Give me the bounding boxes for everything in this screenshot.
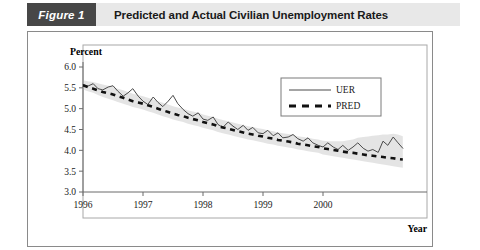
x-tick-label: 1998 (194, 200, 213, 210)
figure-number-badge: Figure 1 (27, 3, 96, 26)
figure-frame: 6.05.55.04.54.03.53.01996199719981999200… (27, 31, 433, 247)
x-tick-label: 2000 (314, 200, 333, 210)
y-tick-label: 4.0 (64, 146, 76, 156)
y-tick-label: 4.5 (64, 125, 76, 135)
y-tick-label: 6.0 (64, 62, 76, 72)
x-axis-title: Year (407, 223, 427, 234)
legend-label-pred: PRED (336, 101, 360, 111)
legend-box (281, 78, 381, 116)
y-tick-label: 3.0 (64, 187, 76, 197)
legend-label-uer: UER (336, 85, 356, 95)
y-axis-title: Percent (70, 46, 103, 57)
x-tick-label: 1997 (134, 200, 153, 210)
x-tick-label: 1996 (74, 200, 93, 210)
unemployment-rate-chart: 6.05.55.04.54.03.53.01996199719981999200… (28, 32, 434, 248)
x-tick-label: 1999 (254, 200, 273, 210)
y-tick-label: 5.0 (64, 104, 76, 114)
figure-title: Predicted and Actual Civilian Unemployme… (96, 3, 460, 26)
y-tick-label: 5.5 (64, 83, 76, 93)
figure-header: Figure 1 Predicted and Actual Civilian U… (27, 3, 460, 26)
y-tick-label: 3.5 (64, 167, 76, 177)
